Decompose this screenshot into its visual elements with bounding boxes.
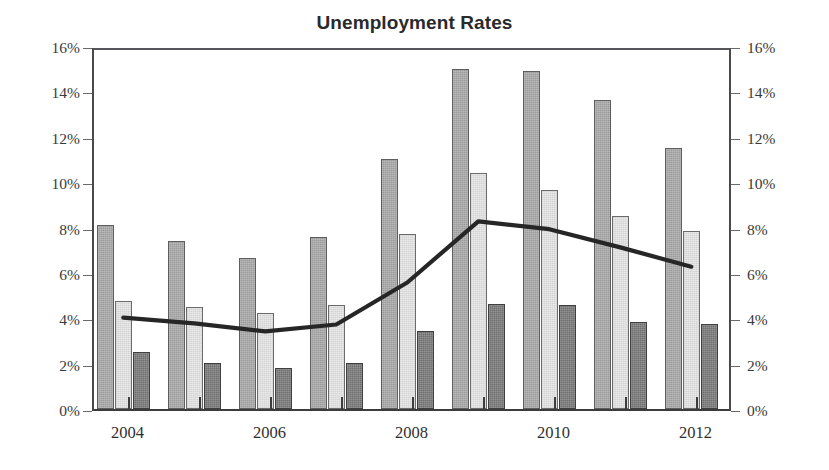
y-tick-mark-left [83, 139, 92, 140]
y-tick-mark-right [731, 184, 740, 185]
x-tick-mark-2009 [483, 397, 485, 411]
x-tick-mark-2008 [412, 397, 414, 411]
x-tick-mark-2004 [128, 397, 130, 411]
y-tick-label-right-10%: 10% [747, 176, 793, 192]
plot-area [92, 48, 731, 411]
y-tick-mark-right [731, 230, 740, 231]
y-tick-mark-right [731, 366, 740, 367]
y-tick-mark-right [731, 139, 740, 140]
y-tick-label-left-2%: 2% [34, 358, 80, 374]
y-tick-label-left-12%: 12% [34, 131, 80, 147]
x-tick-label-2006: 2006 [225, 423, 315, 443]
line-series-path [123, 221, 691, 331]
y-tick-mark-right [731, 48, 740, 49]
x-tick-label-2008: 2008 [367, 423, 457, 443]
y-tick-mark-right [731, 93, 740, 94]
y-tick-label-left-6%: 6% [34, 267, 80, 283]
y-tick-mark-left [83, 320, 92, 321]
x-tick-label-2012: 2012 [651, 423, 741, 443]
chart-title: Unemployment Rates [0, 12, 829, 34]
y-tick-label-right-0%: 0% [747, 403, 793, 419]
y-tick-label-right-8%: 8% [747, 222, 793, 238]
y-tick-label-right-16%: 16% [747, 40, 793, 56]
chart-figure: Unemployment Rates 16%14%12%10%8%6%4%2%0… [0, 0, 829, 470]
x-tick-mark-2007 [341, 397, 343, 411]
x-tick-mark-2010 [554, 397, 556, 411]
y-tick-label-right-14%: 14% [747, 85, 793, 101]
y-tick-label-right-4%: 4% [747, 312, 793, 328]
x-tick-mark-2012 [696, 397, 698, 411]
y-tick-mark-left [83, 230, 92, 231]
line-series-svg [94, 50, 733, 413]
y-tick-mark-right [731, 411, 740, 412]
y-tick-mark-left [83, 411, 92, 412]
y-tick-mark-left [83, 93, 92, 94]
x-tick-label-2010: 2010 [509, 423, 599, 443]
y-tick-label-right-2%: 2% [747, 358, 793, 374]
y-tick-mark-left [83, 48, 92, 49]
x-tick-mark-2006 [270, 397, 272, 411]
y-tick-mark-right [731, 320, 740, 321]
y-tick-label-left-14%: 14% [34, 85, 80, 101]
y-tick-label-right-12%: 12% [747, 131, 793, 147]
y-tick-label-right-6%: 6% [747, 267, 793, 283]
y-tick-label-left-0%: 0% [34, 403, 80, 419]
y-tick-label-left-10%: 10% [34, 176, 80, 192]
y-tick-mark-right [731, 275, 740, 276]
y-tick-mark-left [83, 275, 92, 276]
x-tick-mark-2005 [199, 397, 201, 411]
x-tick-label-2004: 2004 [83, 423, 173, 443]
y-tick-label-left-16%: 16% [34, 40, 80, 56]
line-series-layer [94, 50, 729, 409]
y-tick-mark-left [83, 366, 92, 367]
y-tick-mark-left [83, 184, 92, 185]
y-tick-label-left-4%: 4% [34, 312, 80, 328]
y-tick-label-left-8%: 8% [34, 222, 80, 238]
x-tick-mark-2011 [625, 397, 627, 411]
